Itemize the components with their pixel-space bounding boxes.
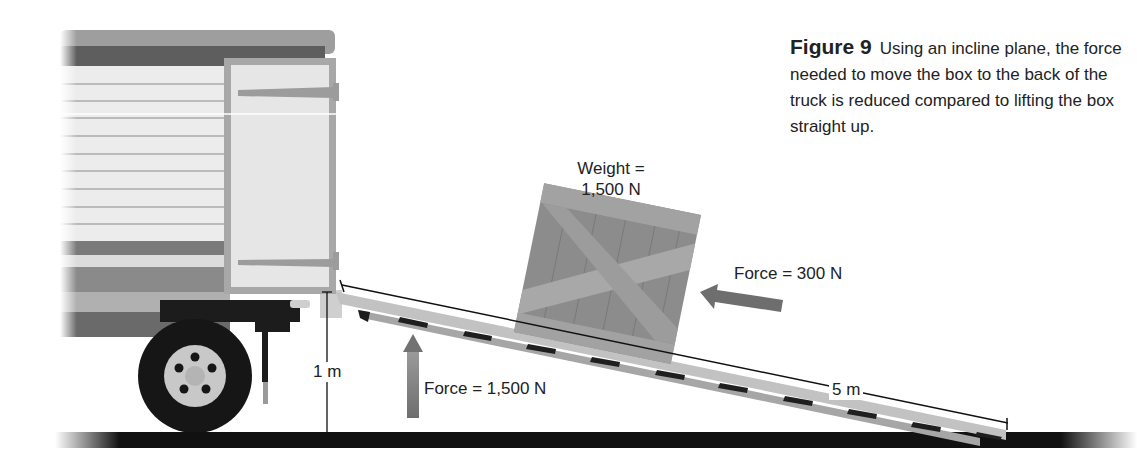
incline-force-label: Force = 300 N [734, 264, 842, 284]
figure-caption: Figure 9Using an incline plane, the forc… [790, 34, 1130, 140]
crate [514, 183, 701, 364]
truck-door [224, 58, 339, 294]
wheel [138, 319, 252, 433]
weight-label: Weight = 1,500 N [566, 158, 656, 200]
door-panel [231, 65, 329, 287]
weight-label-line2: 1,500 N [566, 179, 656, 200]
incline-plane-diagram: Figure 9Using an incline plane, the forc… [0, 0, 1137, 476]
lift-force-label: Force = 1,500 N [424, 379, 546, 399]
force-arrow-incline [700, 284, 783, 312]
height-label: 1 m [312, 362, 342, 382]
mud-flap-rod [262, 332, 268, 382]
figure-number: Figure 9 [790, 35, 872, 58]
weight-label-line1: Weight = [566, 158, 656, 179]
force-arrow-up [403, 334, 423, 418]
ramp-length-label: 5 m [829, 380, 863, 400]
